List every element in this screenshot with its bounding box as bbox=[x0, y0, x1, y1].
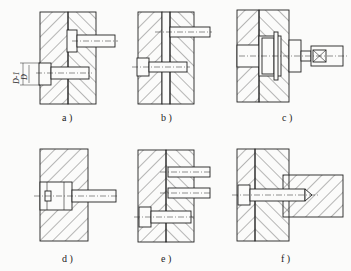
caption-c: c ) bbox=[282, 112, 292, 123]
dimension-label-d: D bbox=[20, 74, 29, 80]
panel-b bbox=[132, 12, 212, 104]
panel-a bbox=[20, 12, 118, 104]
caption-f: f ) bbox=[281, 253, 290, 264]
caption-a: a ) bbox=[62, 112, 72, 123]
caption-e: e ) bbox=[161, 253, 171, 264]
panel-d bbox=[34, 149, 118, 241]
diagram-svg bbox=[0, 0, 351, 271]
caption-d: d ) bbox=[62, 253, 73, 264]
panel-f bbox=[232, 149, 343, 241]
caption-b: b ) bbox=[161, 112, 172, 123]
figure-canvas: D-1 D a ) b ) c ) d ) e ) f ) bbox=[0, 0, 351, 271]
panel-e bbox=[134, 150, 212, 242]
panel-c bbox=[237, 10, 348, 102]
